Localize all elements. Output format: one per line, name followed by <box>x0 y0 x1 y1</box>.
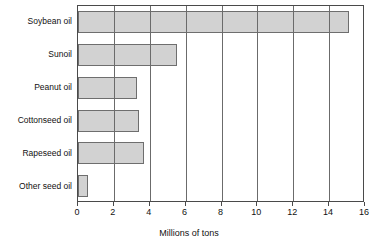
bar-chart: Soybean oilSunoilPeanut oilCottonseed oi… <box>0 0 378 250</box>
category-label: Soybean oil <box>0 16 72 26</box>
bar <box>78 77 137 99</box>
x-tick-label: 4 <box>134 207 164 218</box>
gridline <box>150 6 151 201</box>
plot-area <box>77 5 364 202</box>
bar <box>78 44 177 66</box>
bar <box>78 142 144 164</box>
x-tick-label: 16 <box>349 207 378 218</box>
gridline <box>114 6 115 201</box>
x-tick-label: 0 <box>62 207 92 218</box>
gridline <box>329 6 330 201</box>
gridline <box>293 6 294 201</box>
gridline <box>186 6 187 201</box>
category-label: Peanut oil <box>0 82 72 92</box>
x-tick-label: 10 <box>241 207 271 218</box>
x-tick-label: 14 <box>313 207 343 218</box>
category-label: Other seed oil <box>0 181 72 191</box>
category-label: Rapeseed oil <box>0 148 72 158</box>
x-tick-label: 8 <box>206 207 236 218</box>
bar <box>78 110 139 132</box>
category-label: Cottonseed oil <box>0 115 72 125</box>
x-tick-label: 6 <box>170 207 200 218</box>
x-tick-label: 2 <box>98 207 128 218</box>
gridline <box>257 6 258 201</box>
x-axis-title: Millions of tons <box>0 228 378 239</box>
bars-layer <box>78 6 363 201</box>
gridline <box>222 6 223 201</box>
category-label: Sunoil <box>0 49 72 59</box>
x-tick-label: 12 <box>277 207 307 218</box>
bar <box>78 175 88 197</box>
bar <box>78 11 349 33</box>
